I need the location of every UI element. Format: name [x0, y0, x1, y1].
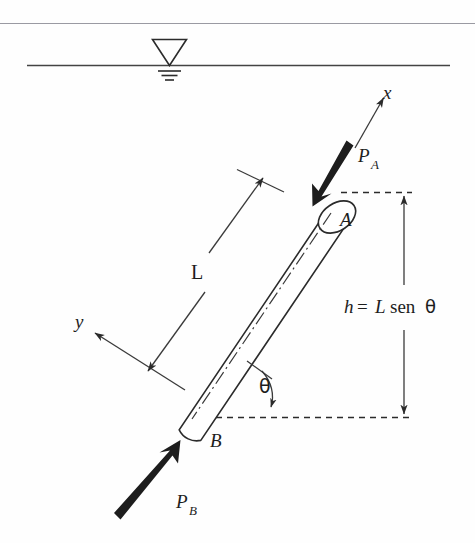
force-pa-label-group: P A [357, 145, 379, 172]
force-pa-arrow [312, 141, 354, 207]
length-dimension-arrow-up [209, 178, 263, 253]
angle-theta-label: θ [259, 375, 271, 397]
pipe-group [179, 194, 361, 441]
height-var-h: h [344, 296, 354, 317]
force-pb-symbol: P [175, 491, 188, 512]
axis-y-label: y [73, 311, 84, 332]
length-dimension-arrow-down [148, 292, 205, 371]
force-pb-subscript: B [189, 503, 197, 518]
height-sine-function: sen [390, 296, 416, 317]
water-surface-group [27, 40, 450, 81]
height-equals-sign: = [357, 296, 368, 317]
point-b-label: B [210, 430, 222, 451]
axis-y-arrow [95, 333, 185, 390]
point-a-label: A [338, 209, 352, 230]
axis-x-label: x [382, 82, 392, 103]
force-pa-symbol: P [357, 145, 370, 166]
figure-canvas: x y A B L θ P A P B h = L sen θ [0, 0, 475, 543]
height-angle-theta: θ [425, 296, 436, 317]
pipe-body [179, 212, 348, 441]
length-label: L [191, 261, 203, 283]
force-pb-arrow [114, 440, 181, 520]
pipe-diagram-svg: x y A B L θ P A P B h = L sen θ [0, 0, 475, 543]
axis-x-arrow [355, 98, 384, 148]
height-var-l: L [374, 296, 386, 317]
height-expression-group: h = L sen θ [344, 296, 436, 317]
water-table-triangle-icon [153, 40, 187, 66]
force-pb-label-group: P B [175, 491, 197, 518]
force-pa-subscript: A [370, 157, 379, 172]
